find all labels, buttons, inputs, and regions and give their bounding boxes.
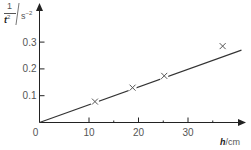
y-tick-label: 0.3 [23,37,37,48]
best-fit-line [40,50,242,122]
y-axis-label: 1 t2 s−2 [3,1,43,31]
y-label-numerator: 1 [7,1,12,11]
origin-label: 0 [33,127,39,138]
x-axis-arrow-icon [238,119,246,126]
y-tick-label: 0.1 [23,90,37,101]
x-label-symbol: h [220,137,226,147]
x-tick-label: 20 [133,127,145,138]
x-tick-label: 30 [182,127,194,138]
x-tick-label: 10 [83,127,95,138]
y-label-unit: s−2 [21,10,32,21]
y-label-denominator: t2 [4,14,10,25]
y-label-power: 2 [7,14,10,20]
y-tick-label: 0.2 [23,63,37,74]
unit-separator [15,3,19,25]
y-label-unit-power: −2 [26,10,33,16]
x-label-unit: cm [228,137,240,147]
x-axis-label: h/cm [220,137,240,147]
